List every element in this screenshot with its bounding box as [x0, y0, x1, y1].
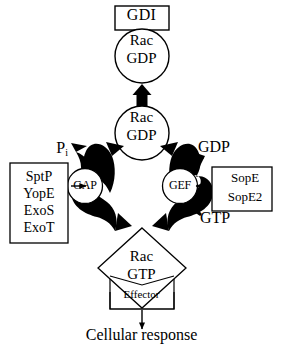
rac-gdp-top-label-line2: GDP: [0, 51, 283, 67]
cellular-response-label: Cellular response: [0, 327, 283, 344]
pi-label: Pi: [24, 140, 68, 159]
gdp-released-label: GDP: [198, 139, 268, 156]
gap-label: GAP: [60, 179, 110, 192]
gef-mimics-list: SopESopE2: [215, 168, 275, 206]
pi-subscript: i: [65, 147, 68, 158]
rac-gdp-top-label-line1: Rac: [0, 33, 283, 49]
rac-gtp-label-line2: GTP: [0, 267, 283, 283]
pi-letter: P: [56, 139, 65, 156]
gdi-label: GDI: [0, 7, 283, 24]
diagram-canvas: GDI Rac GDP Rac GDP GAP GEF Pi GDP GTP R…: [0, 0, 283, 352]
rac-gdp-mid-label-line1: Rac: [0, 110, 283, 126]
gtp-loaded-label: GTP: [200, 210, 270, 227]
effector-label: Effector: [0, 289, 283, 301]
gap-activators-list: SptPYopEExoSExoT: [14, 168, 64, 236]
rac-gtp-label-line1: Rac: [0, 249, 283, 265]
gef-label: GEF: [155, 179, 205, 192]
